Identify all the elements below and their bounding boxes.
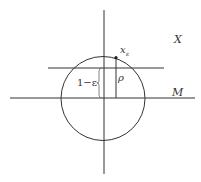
label-one-minus-eps: 1−ε [77,77,97,88]
diagram-canvas: 1−ε ρ x ε X M [0,0,201,182]
point-x-eps [114,56,117,59]
label-subspace-m: M [171,86,184,99]
label-space-x: X [173,33,183,46]
label-rho: ρ [117,72,124,83]
label-x-subscript: ε [126,50,129,57]
brace-1-minus-eps [97,68,102,98]
